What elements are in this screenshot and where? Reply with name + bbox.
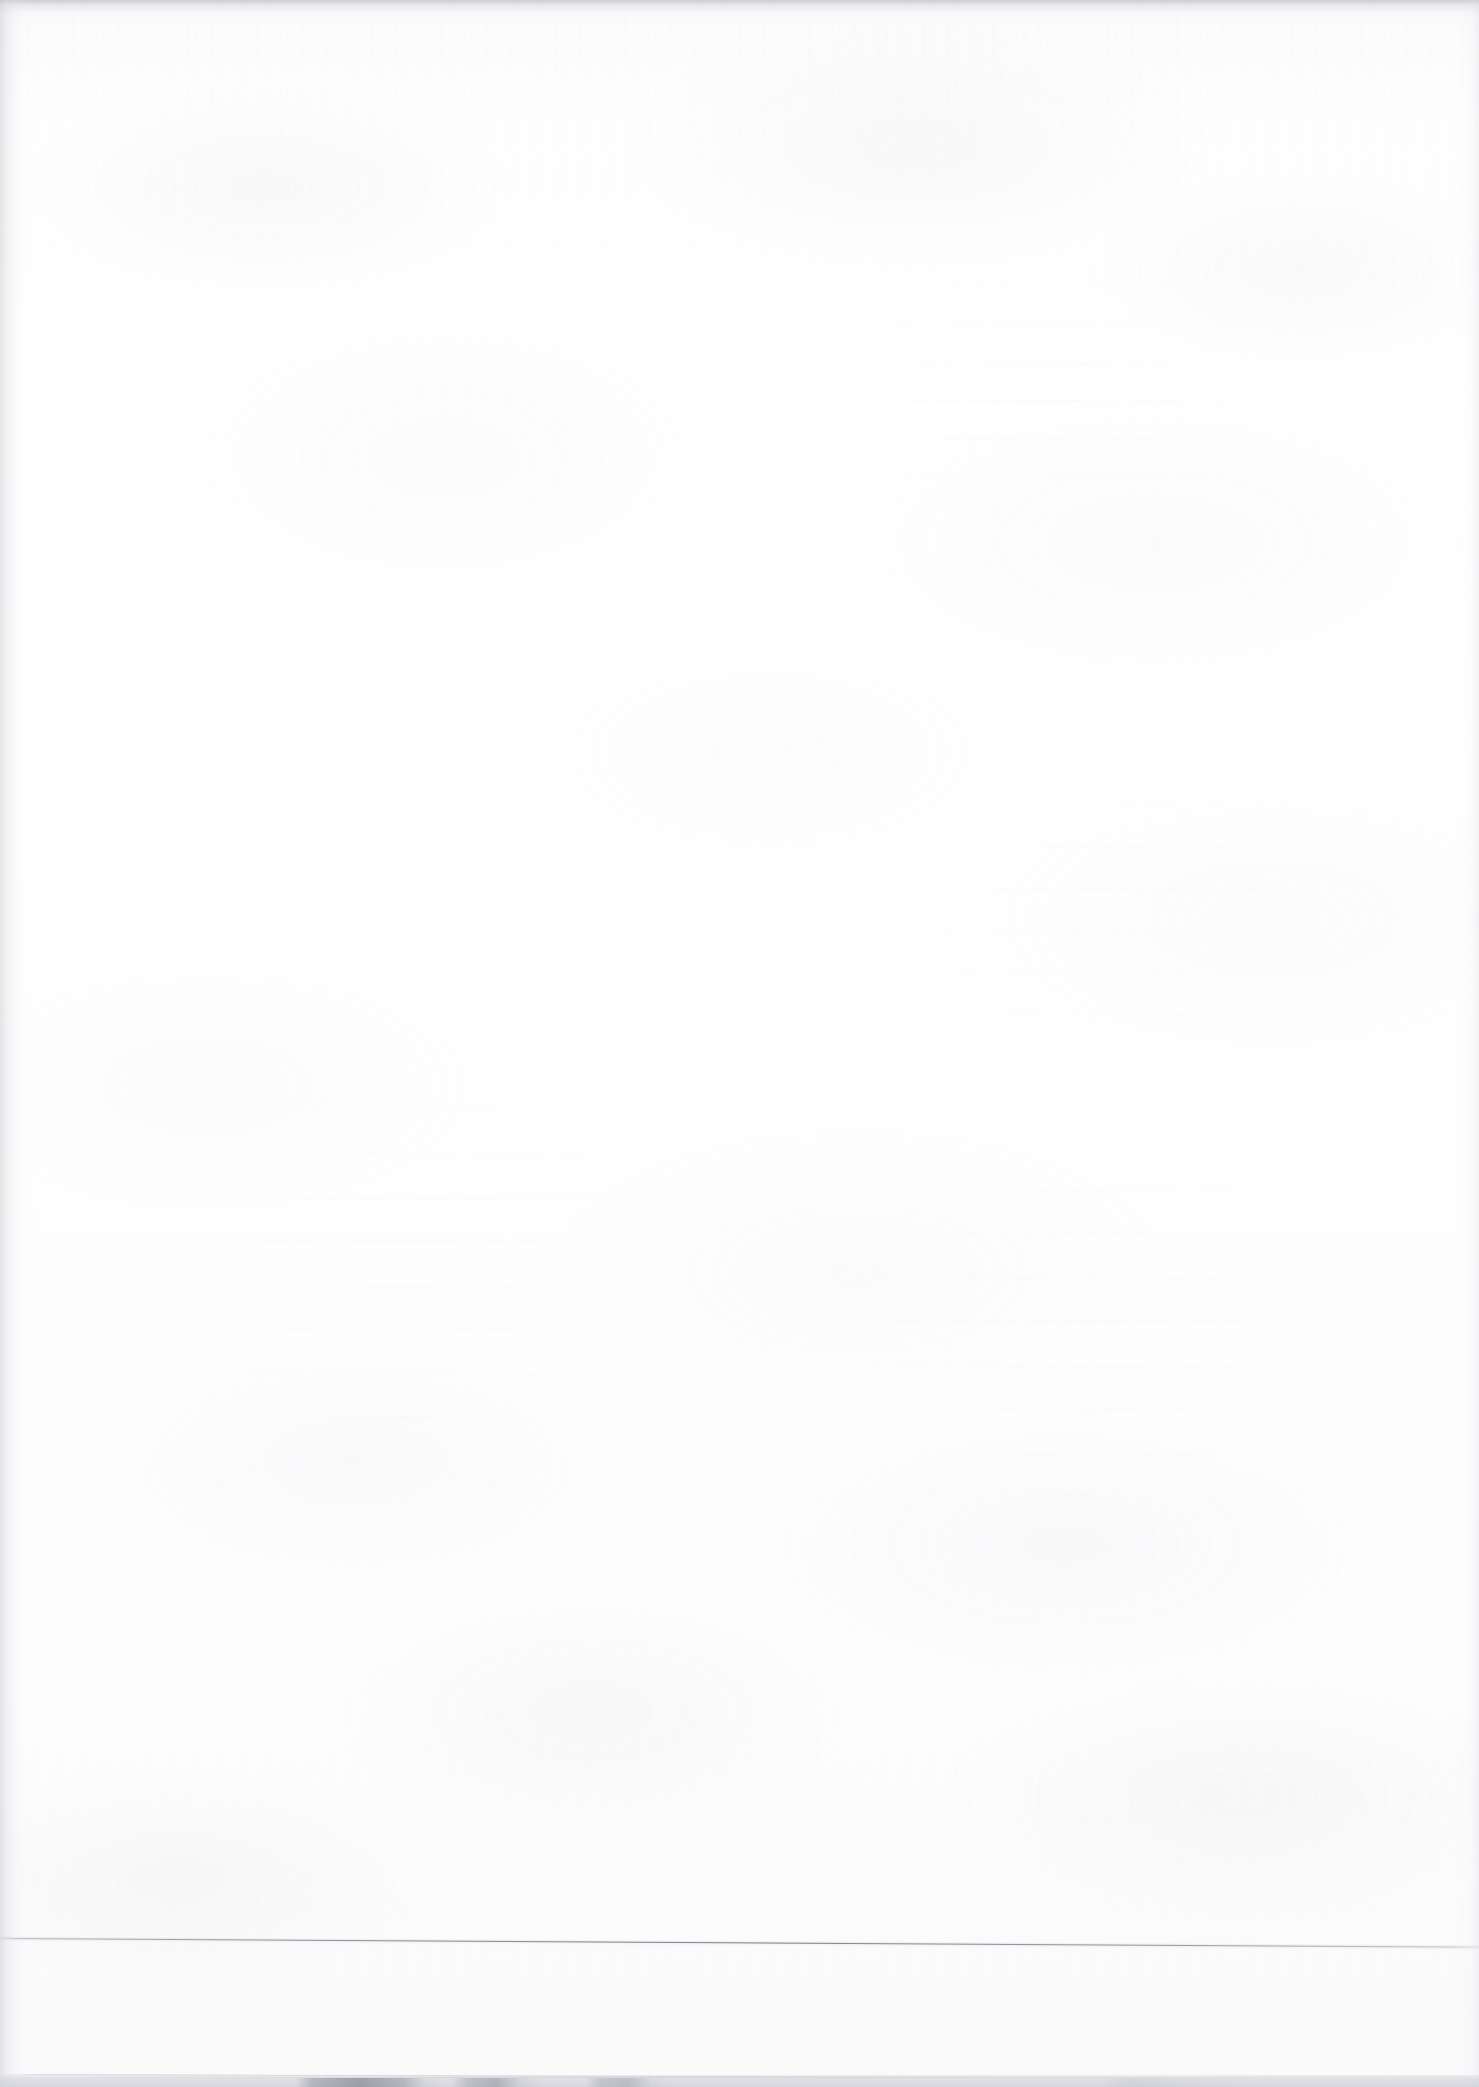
right-edge-shadow [1457, 0, 1479, 2087]
top-edge-shadow [0, 0, 1479, 26]
scanner-streak-texture [0, 0, 1479, 2087]
left-gutter-shadow [0, 0, 34, 2087]
scanned-page [0, 0, 1479, 2087]
platen-dark-blocks [0, 2078, 1479, 2087]
